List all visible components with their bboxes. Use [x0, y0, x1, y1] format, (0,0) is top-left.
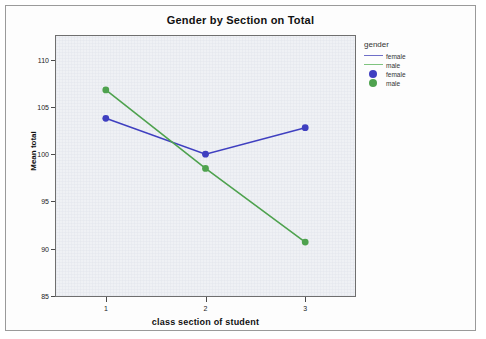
x-tick-label: 3	[303, 305, 307, 312]
y-tick-label: 90	[19, 245, 49, 252]
x-axis-title: class section of student	[55, 317, 356, 327]
legend-marker-swatch	[362, 79, 384, 87]
data-point-male-3	[302, 239, 309, 246]
legend-item-label: female	[386, 71, 406, 78]
chart-title: Gender by Section on Total	[6, 14, 475, 26]
legend-item-label: male	[386, 80, 400, 87]
legend-line-icon	[364, 64, 383, 65]
legend-line-swatch	[362, 52, 384, 60]
data-point-female-2	[202, 151, 209, 158]
data-point-female-3	[302, 124, 309, 131]
x-tick-mark	[305, 297, 306, 302]
plot-area	[55, 35, 356, 297]
y-tick-label: 100	[19, 151, 49, 158]
legend-item-label: male	[386, 62, 400, 69]
legend-item: male	[362, 61, 472, 69]
legend-dot-icon	[369, 79, 377, 87]
legend-item: male	[362, 79, 472, 87]
legend-marker-swatch	[362, 70, 384, 78]
legend-item: female	[362, 70, 472, 78]
plot-series-svg	[56, 36, 355, 296]
chart-root: Gender by Section on Total Mean total 11…	[6, 6, 475, 330]
x-tick-mark	[206, 297, 207, 302]
data-point-male-1	[102, 87, 109, 94]
legend-item-label: female	[386, 53, 406, 60]
y-tick-label: 85	[19, 293, 49, 300]
y-tick-label: 110	[19, 56, 49, 63]
legend: gender femalemalefemalemale	[362, 40, 472, 88]
legend-title: gender	[362, 40, 472, 49]
legend-line-swatch	[362, 61, 384, 69]
data-point-female-1	[102, 115, 109, 122]
legend-dot-icon	[369, 70, 377, 78]
x-tick-label: 2	[204, 305, 208, 312]
x-tick-mark	[106, 297, 107, 302]
y-tick-label: 95	[19, 198, 49, 205]
legend-line-icon	[364, 55, 383, 56]
legend-item: female	[362, 52, 472, 60]
y-tick-label: 105	[19, 103, 49, 110]
series-line-female	[106, 118, 305, 154]
x-tick-label: 1	[104, 305, 108, 312]
data-point-male-2	[202, 165, 209, 172]
chart-outer-border: Gender by Section on Total Mean total 11…	[5, 5, 476, 331]
legend-entries: femalemalefemalemale	[362, 52, 472, 87]
